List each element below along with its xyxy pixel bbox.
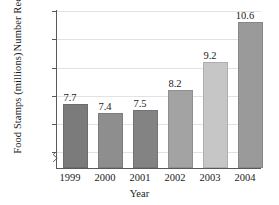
bar-2002[interactable] [168, 90, 193, 168]
x-tick-label-2004: 2004 [225, 172, 265, 183]
bar-chart-figure: Number Receiving Food Stamps (millions) … [0, 0, 279, 205]
y-tick-mark [52, 39, 57, 40]
bar-2003[interactable] [203, 62, 228, 168]
gridline [57, 39, 261, 40]
bar-value-label-2002: 8.2 [155, 78, 195, 89]
x-tick-label-2000: 2000 [85, 172, 125, 183]
plot-area [57, 11, 261, 168]
bar-value-label-2003: 9.2 [190, 50, 230, 61]
bar-2001[interactable] [133, 110, 158, 168]
y-axis-line [56, 10, 57, 169]
x-axis-line [56, 168, 261, 169]
x-tick-label-2001: 2001 [120, 172, 160, 183]
gridline [57, 68, 261, 69]
y-tick-mark [52, 124, 57, 125]
y-tick-mark [52, 68, 57, 69]
y-tick-mark [52, 152, 57, 153]
x-tick-label-1999: 1999 [50, 172, 90, 183]
bar-1999[interactable] [63, 104, 88, 168]
bar-2004[interactable] [238, 22, 263, 168]
x-tick-label-2003: 2003 [190, 172, 230, 183]
y-axis-title-line-2: Food Stamps (millions) [12, 52, 24, 153]
y-axis-title-line-1: Number Receiving [12, 0, 24, 51]
y-axis-title: Number Receiving Food Stamps (millions) [0, 0, 36, 133]
bar-value-label-2001: 7.5 [120, 98, 160, 109]
bar-2000[interactable] [98, 113, 123, 168]
x-axis-title: Year [0, 188, 279, 199]
bar-value-label-2004: 10.6 [225, 10, 265, 21]
bar-value-label-1999: 7.7 [50, 92, 90, 103]
bar-value-label-2000: 7.4 [85, 101, 125, 112]
x-tick-label-2002: 2002 [155, 172, 195, 183]
y-tick-mark [52, 11, 57, 12]
